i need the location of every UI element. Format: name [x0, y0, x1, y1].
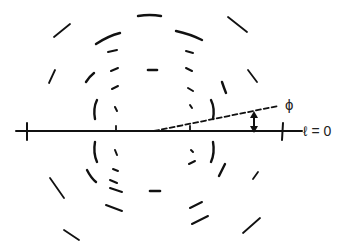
layer-line-label: ℓ = 0 [303, 124, 331, 138]
tilt-dashed-line [154, 106, 278, 131]
ring-2-arcs [86, 73, 226, 182]
ring-1-arcs [106, 50, 208, 224]
diffraction-diagram [0, 0, 349, 252]
tick-right-outer [282, 123, 283, 140]
phi-label: ϕ [285, 97, 293, 112]
tilt-arrow [250, 111, 258, 133]
ring-3-arcs [96, 15, 202, 44]
ring-4-arcs [49, 17, 260, 240]
